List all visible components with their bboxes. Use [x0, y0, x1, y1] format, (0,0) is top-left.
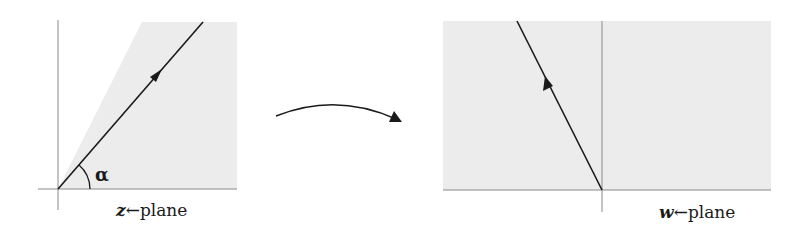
- angle-alpha-label: α: [95, 166, 109, 184]
- w-plane-shaded-half-plane: [443, 21, 771, 190]
- w-plane-panel: [443, 21, 771, 212]
- z-plane-variable: z: [116, 200, 126, 220]
- z-plane-shaded-wedge: [58, 22, 237, 189]
- w-plane-suffix: plane: [688, 202, 735, 222]
- z-plane-suffix: plane: [140, 200, 187, 220]
- w-plane-label: w←plane: [659, 204, 735, 221]
- z-plane-arrow-glyph: ←: [126, 200, 140, 220]
- w-plane-variable: w: [659, 202, 674, 222]
- z-plane-panel: [38, 20, 237, 210]
- mapping-arrow: [276, 105, 402, 122]
- mapping-arrow-curve: [276, 105, 396, 119]
- w-plane-arrow-glyph: ←: [674, 202, 688, 222]
- z-plane-label: z←plane: [116, 202, 187, 219]
- conformal-map-diagram: [0, 0, 809, 233]
